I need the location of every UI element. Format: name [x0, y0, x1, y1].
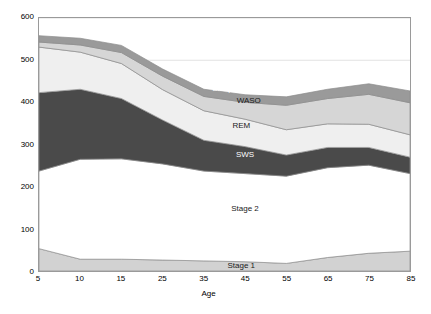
x-tick-label: 15	[116, 274, 125, 283]
y-tick-label: 500	[4, 56, 34, 64]
x-tick-label: 55	[282, 274, 291, 283]
y-tick-label: 300	[4, 141, 34, 149]
x-axis-title: Age	[0, 289, 431, 298]
y-axis: 0100200300400500600	[0, 0, 34, 314]
x-tick-label: 25	[158, 274, 167, 283]
y-tick-label: 100	[4, 226, 34, 234]
x-tick-label: 35	[199, 274, 208, 283]
x-tick-label: 10	[75, 274, 84, 283]
area-band-stage-2	[39, 159, 410, 264]
y-tick-label: 600	[4, 13, 34, 21]
y-tick-label: 400	[4, 98, 34, 106]
y-tick-label: 200	[4, 183, 34, 191]
x-tick-label: 85	[407, 274, 416, 283]
x-axis: 5101525354555657585	[0, 274, 431, 288]
x-tick-label: 65	[324, 274, 333, 283]
x-axis-title-label: Age	[201, 289, 215, 298]
plot-area	[38, 17, 411, 272]
x-tick-label: 75	[365, 274, 374, 283]
sleep-architecture-stacked-area-chart: 0100200300400500600 5101525354555657585 …	[0, 0, 431, 314]
x-tick-label: 45	[241, 274, 250, 283]
plot-svg	[39, 18, 410, 271]
x-tick-label: 5	[36, 274, 40, 283]
